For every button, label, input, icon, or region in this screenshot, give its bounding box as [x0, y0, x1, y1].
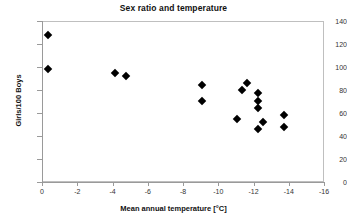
- data-point-marker: [44, 30, 52, 38]
- y-axis-tick: [37, 136, 42, 137]
- x-axis-tick-label: 0: [27, 188, 57, 195]
- data-point-marker: [243, 79, 251, 87]
- x-axis-tick-label: -4: [98, 188, 128, 195]
- x-axis-tick-label: -14: [274, 188, 304, 195]
- y-axis-line: [42, 21, 43, 183]
- y-axis-tick-label: 0: [313, 179, 347, 186]
- data-point-marker: [233, 114, 241, 122]
- x-axis-tick: [218, 182, 219, 186]
- y-axis-tick-label: 100: [313, 64, 347, 71]
- y-axis-tick: [37, 159, 42, 160]
- y-axis-tick-label: 120: [313, 41, 347, 48]
- y-axis-tick: [37, 113, 42, 114]
- y-axis-tick: [37, 44, 42, 45]
- chart-title: Sex ratio and temperature: [0, 3, 347, 13]
- x-axis-tick: [289, 182, 290, 186]
- x-axis-tick-label: -12: [239, 188, 269, 195]
- y-axis-tick-label: 20: [313, 156, 347, 163]
- data-point-marker: [197, 81, 205, 89]
- x-axis-tick: [148, 182, 149, 186]
- x-axis-tick-label: -2: [62, 188, 92, 195]
- data-point-marker: [111, 68, 119, 76]
- data-point-marker: [44, 65, 52, 73]
- data-point-marker: [238, 86, 246, 94]
- x-axis-tick: [113, 182, 114, 186]
- x-axis-tick-label: -16: [309, 188, 339, 195]
- x-axis-tick-label: -6: [133, 188, 163, 195]
- plot-area: [42, 21, 324, 182]
- y-axis-tick: [37, 90, 42, 91]
- data-point-marker: [122, 72, 130, 80]
- x-axis-tick: [42, 182, 43, 186]
- x-axis-tick: [77, 182, 78, 186]
- data-point-marker: [254, 125, 262, 133]
- y-axis-tick-label: 140: [313, 18, 347, 25]
- x-axis-tick-label: -8: [168, 188, 198, 195]
- x-axis-tick: [254, 182, 255, 186]
- data-point-marker: [197, 97, 205, 105]
- y-axis-tick: [37, 67, 42, 68]
- y-axis-tick-label: 60: [313, 110, 347, 117]
- x-axis-tick: [324, 182, 325, 186]
- x-axis-tick: [183, 182, 184, 186]
- y-axis-title: Girls/100 Boys: [14, 41, 23, 161]
- data-point-marker: [254, 104, 262, 112]
- x-axis-title: Mean annual temperature [°C]: [0, 204, 347, 213]
- scatter-chart: Sex ratio and temperature 02040608010012…: [0, 0, 347, 223]
- y-axis-tick-label: 40: [313, 133, 347, 140]
- data-point-marker: [259, 118, 267, 126]
- y-axis-tick: [37, 21, 42, 22]
- data-point-marker: [280, 122, 288, 130]
- data-point-marker: [280, 111, 288, 119]
- y-axis-tick-label: 80: [313, 87, 347, 94]
- x-axis-tick-label: -10: [203, 188, 233, 195]
